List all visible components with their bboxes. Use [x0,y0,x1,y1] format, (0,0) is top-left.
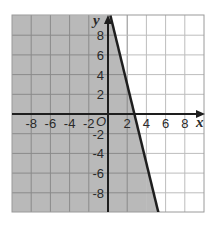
y-tick-label: -4 [92,146,104,161]
x-tick-label: 8 [181,116,188,131]
x-tick-label: -8 [25,116,37,131]
y-tick-label: 2 [97,87,104,102]
inequality-graph: -8-6-4-22468 8642-2-4-6-8 x y O [0,0,215,229]
y-tick-label: 8 [97,28,104,43]
y-tick-label: -6 [92,166,104,181]
x-tick-label: 4 [143,116,150,131]
y-axis-label: y [91,12,100,28]
x-axis-label: x [195,114,204,130]
x-tick-label: 2 [124,116,131,131]
x-tick-label: -6 [45,116,57,131]
y-tick-label: 6 [97,48,104,63]
x-tick-label: -4 [64,116,76,131]
origin-label: O [96,114,106,129]
y-tick-label: 4 [97,68,104,83]
y-tick-label: -8 [92,186,104,201]
x-tick-label: 6 [162,116,169,131]
